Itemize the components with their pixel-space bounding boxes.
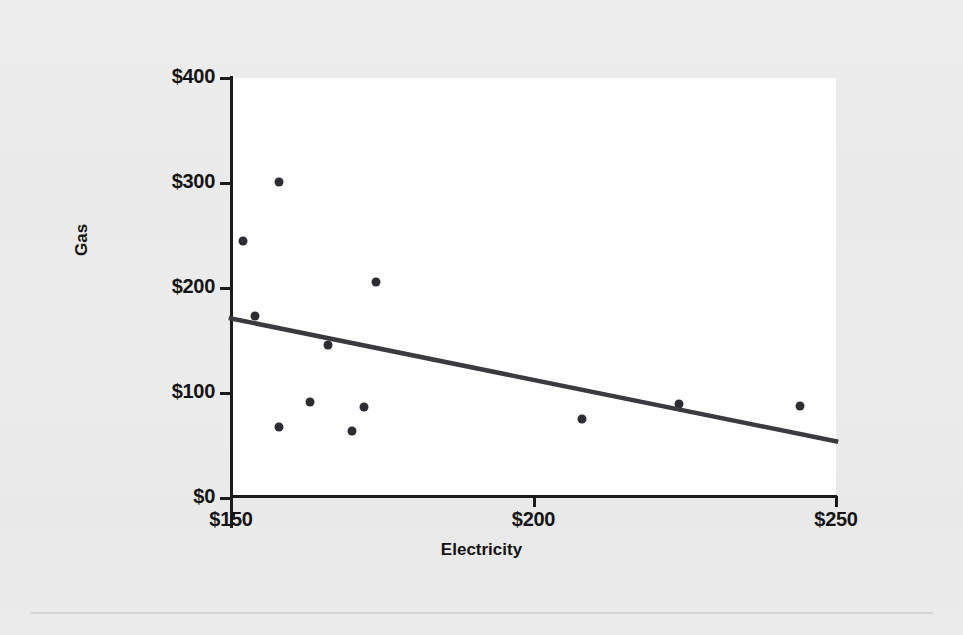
y-axis-tick-label: $200: [172, 275, 215, 298]
y-axis-tick: [220, 287, 231, 290]
y-axis-tick-label: $0: [193, 485, 215, 508]
x-axis-tick-label: $150: [209, 508, 252, 531]
y-axis-tick-labels: $0$100$200$300$400: [90, 28, 215, 528]
y-axis-tick: [220, 77, 231, 80]
scatter-chart-figure: $0$100$200$300$400 $150$200$250 Gas Elec…: [30, 28, 933, 568]
x-axis-tick-label: $200: [512, 508, 555, 531]
y-axis-tick-label: $400: [172, 65, 215, 88]
y-axis-tick: [220, 392, 231, 395]
x-axis-tick-label: $250: [814, 508, 857, 531]
trend-line: [231, 78, 836, 498]
page-divider: [30, 612, 933, 614]
y-axis-tick: [220, 182, 231, 185]
y-axis-title: Gas: [72, 224, 92, 256]
x-axis-title: Electricity: [30, 540, 933, 560]
y-axis-tick-label: $100: [172, 380, 215, 403]
y-axis-tick-label: $300: [172, 170, 215, 193]
